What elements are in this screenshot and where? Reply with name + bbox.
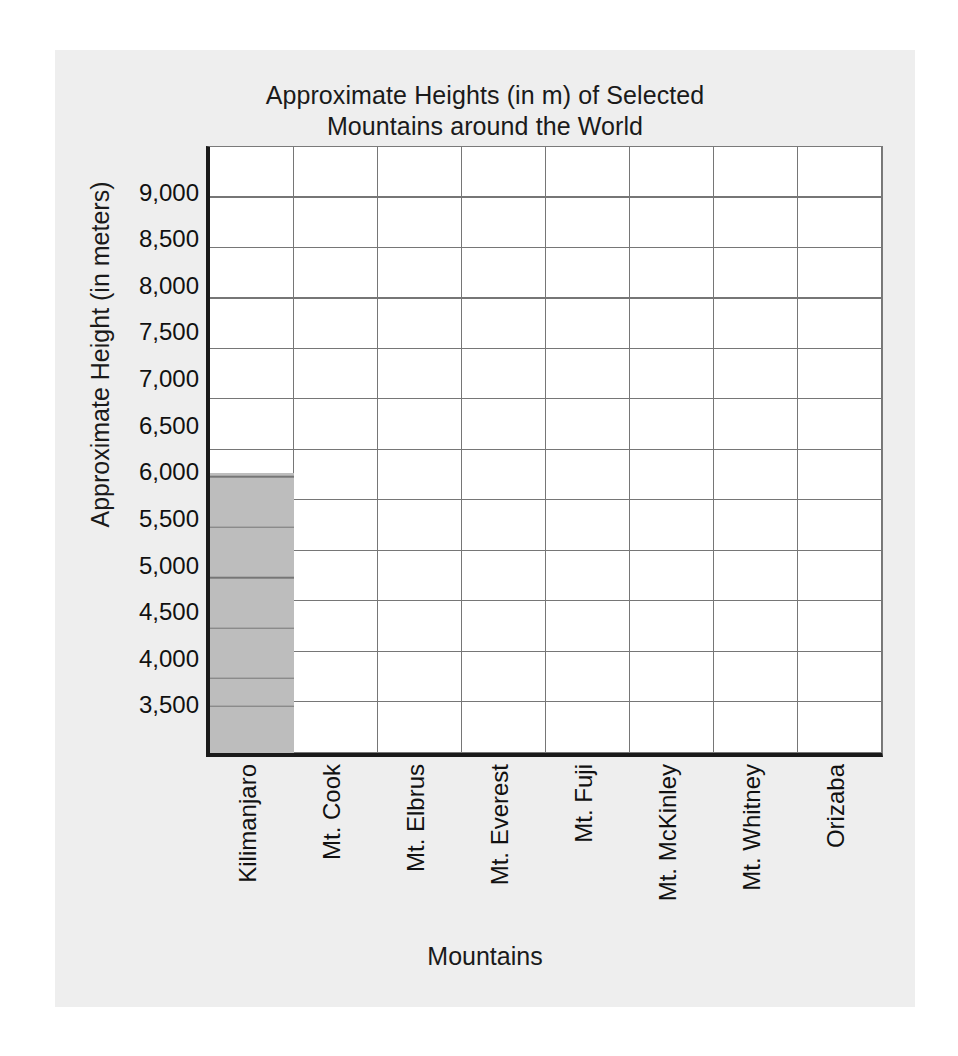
y-axis-tick-labels: 9,0008,5008,0007,5007,0006,5006,0005,500… — [81, 146, 199, 752]
x-tick-label-text: Mt. Fuji — [570, 764, 598, 843]
y-tick-label: 9,000 — [89, 179, 199, 207]
x-axis-title: Mountains — [55, 942, 915, 971]
y-tick-label: 7,500 — [89, 318, 199, 346]
gridline-right-edge — [881, 147, 882, 753]
chart-panel: Approximate Heights (in m) of Selected M… — [55, 50, 915, 1007]
y-tick-label: 5,500 — [89, 505, 199, 533]
y-tick-label: 4,000 — [89, 645, 199, 673]
x-tick-label: Mt. Elbrus — [374, 758, 458, 948]
x-tick-label: Mt. Everest — [458, 758, 542, 948]
x-tick-label-text: Mt. Cook — [318, 764, 346, 860]
x-tick-label: Kilimanjaro — [206, 758, 290, 948]
x-tick-label-text: Orizaba — [822, 764, 850, 848]
x-tick-label: Mt. Fuji — [542, 758, 626, 948]
x-tick-label: Mt. Whitney — [710, 758, 794, 948]
y-tick-label: 7,000 — [89, 365, 199, 393]
x-tick-label-text: Mt. Whitney — [738, 764, 766, 891]
y-tick-label: 6,500 — [89, 412, 199, 440]
y-tick-label: 8,000 — [89, 272, 199, 300]
x-tick-label: Orizaba — [794, 758, 878, 948]
y-tick-label: 4,500 — [89, 598, 199, 626]
y-tick-label: 6,000 — [89, 458, 199, 486]
x-tick-label: Mt. Cook — [290, 758, 374, 948]
x-tick-label-text: Mt. Everest — [486, 764, 514, 885]
gridlines — [210, 147, 882, 753]
plot-area — [206, 146, 883, 757]
bar-gridline-overlay — [210, 473, 294, 753]
x-axis-tick-labels: KilimanjaroMt. CookMt. ElbrusMt. Everest… — [206, 758, 878, 948]
x-tick-label: Mt. McKinley — [626, 758, 710, 948]
x-tick-label-text: Mt. Elbrus — [402, 764, 430, 872]
x-tick-label-text: Mt. McKinley — [654, 764, 682, 901]
x-tick-label-text: Kilimanjaro — [234, 764, 262, 883]
chart-title: Approximate Heights (in m) of Selected M… — [55, 80, 915, 142]
y-tick-label: 8,500 — [89, 225, 199, 253]
y-tick-label: 3,500 — [89, 691, 199, 719]
y-tick-label: 5,000 — [89, 552, 199, 580]
bar-kilimanjaro — [210, 473, 294, 753]
